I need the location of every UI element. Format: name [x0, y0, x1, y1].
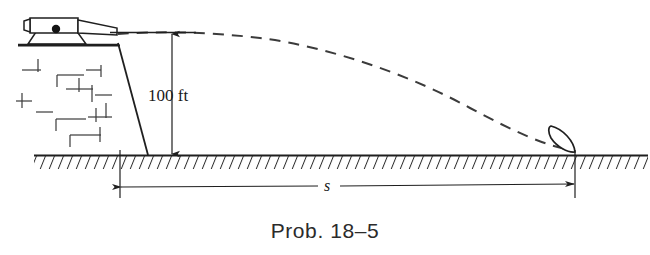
height-dimension: 100 ft — [110, 33, 196, 155]
projectile — [549, 126, 575, 152]
brick-marks — [16, 59, 112, 147]
range-dimension-line-left — [121, 186, 318, 187]
ground — [34, 156, 648, 170]
range-dimension-line-right — [340, 184, 574, 186]
cannon-trunnion — [52, 25, 60, 33]
problem-figure: 100 ft s Prob. 18–5 — [0, 0, 650, 255]
figure-caption: Prob. 18–5 — [271, 219, 380, 242]
cannon — [18, 18, 118, 45]
range-dimension-label: s — [324, 177, 330, 194]
cannon-breech — [24, 19, 30, 32]
height-dimension-label: 100 ft — [148, 86, 188, 105]
cannonball-shape — [549, 126, 575, 152]
brick-wall — [16, 43, 148, 155]
wall-right-face — [118, 43, 148, 155]
figure-root: 100 ft s Prob. 18–5 — [0, 0, 650, 255]
ground-hatching — [34, 156, 648, 169]
